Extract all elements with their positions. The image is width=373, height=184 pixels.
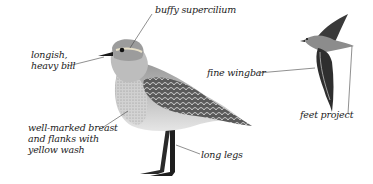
label-supercilium: buffy supercilium	[155, 4, 236, 15]
illustration	[0, 0, 373, 184]
bill	[98, 52, 113, 56]
bird-diagram: longish, heavy bill buffy supercilium we…	[0, 0, 373, 184]
label-breast-line3: yellow wash	[28, 144, 118, 155]
label-bill-line2: heavy bill	[31, 60, 75, 71]
label-breast-line1: well-marked breast	[28, 122, 118, 133]
label-bill-line1: longish,	[31, 49, 75, 60]
flying-body	[304, 36, 354, 53]
leg-back	[140, 128, 170, 174]
flying-bird	[300, 14, 354, 112]
label-bill: longish, heavy bill	[31, 49, 75, 71]
label-legs: long legs	[201, 149, 243, 160]
eye	[120, 48, 125, 53]
near-wing	[316, 48, 333, 112]
label-wingbar: fine wingbar	[207, 67, 266, 78]
label-breast-line2: and flanks with	[28, 133, 118, 144]
label-breast: well-marked breast and flanks with yello…	[28, 122, 118, 155]
label-feet: feet project	[300, 109, 353, 120]
